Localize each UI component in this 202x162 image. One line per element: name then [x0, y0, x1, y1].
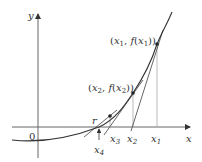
- origin-label: 0: [29, 131, 35, 142]
- x4-tick-label: x4: [94, 144, 104, 157]
- x2-tick-label: x2: [127, 133, 138, 146]
- x1-tick-label: x1: [151, 133, 161, 146]
- newton-method-diagram: y x 0 r x1 x2 x3 x4 (x1, f(x1)) (x2, f(x…: [0, 0, 202, 162]
- y-axis-label: y: [27, 10, 34, 21]
- root-label: r: [92, 115, 98, 126]
- x-axis-label: x: [186, 133, 192, 144]
- point-x2-label: (x2, f(x2)): [88, 82, 134, 95]
- point-x3: [108, 114, 112, 118]
- point-x1-label: (x1, f(x1)): [110, 35, 156, 48]
- x3-tick-label: x3: [110, 133, 121, 146]
